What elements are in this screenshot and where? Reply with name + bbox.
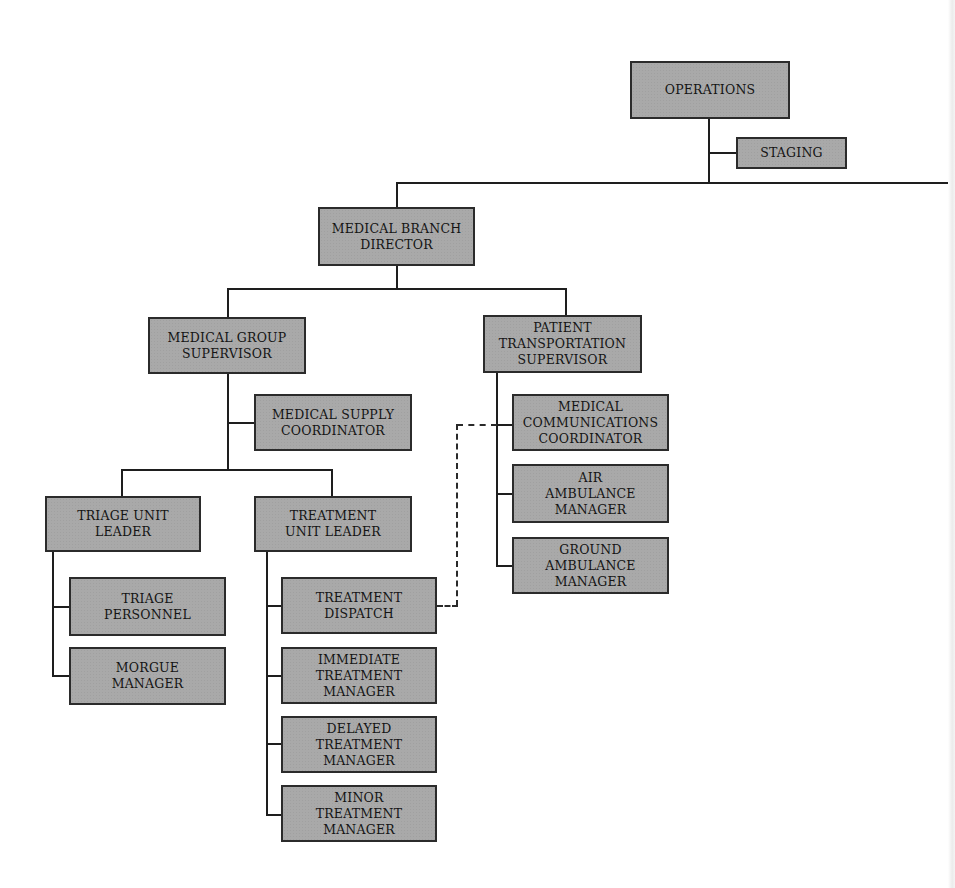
connector-triage-leader-down	[52, 551, 54, 677]
node-staging: STAGING	[736, 137, 847, 169]
connector-to-transport-supervisor	[565, 288, 567, 316]
connector-transport-supervisor-down	[496, 372, 498, 567]
page-edge-shadow	[948, 0, 955, 888]
connector-to-branch-director	[396, 182, 398, 208]
connector-triage-personnel	[52, 606, 70, 608]
connector-immediate	[266, 675, 282, 677]
node-immediate-treatment-manager: IMMEDIATE TREATMENT MANAGER	[281, 647, 437, 704]
node-triage-personnel: TRIAGE PERSONNEL	[69, 577, 226, 636]
node-patient-transportation-supervisor: PATIENT TRANSPORTATION SUPERVISOR	[483, 315, 642, 373]
node-delayed-treatment-manager: DELAYED TREATMENT MANAGER	[281, 716, 437, 773]
node-treatment-dispatch: TREATMENT DISPATCH	[281, 577, 437, 634]
connector-delayed	[266, 743, 282, 745]
connector-branch-bar	[227, 288, 567, 290]
org-chart: OPERATIONS STAGING MEDICAL BRANCH DIRECT…	[0, 0, 955, 888]
node-medical-branch-director: MEDICAL BRANCH DIRECTOR	[318, 207, 475, 266]
connector-air-ambulance	[496, 493, 513, 495]
node-air-ambulance-manager: AIR AMBULANCE MANAGER	[512, 464, 669, 523]
connector-main-bar	[396, 182, 948, 184]
dashed-link-bottom	[437, 605, 458, 607]
node-minor-treatment-manager: MINOR TREATMENT MANAGER	[281, 785, 437, 842]
dashed-link-vertical	[456, 424, 458, 606]
connector-to-treatment-leader	[331, 469, 333, 497]
connector-supply-coordinator	[227, 422, 255, 424]
connector-communications	[496, 424, 513, 426]
connector-to-triage-leader	[121, 469, 123, 497]
connector-ground-ambulance	[496, 565, 513, 567]
connector-minor	[266, 814, 282, 816]
connector-operations-down	[708, 118, 710, 184]
dashed-link-top	[457, 424, 497, 426]
connector-morgue-manager	[52, 675, 70, 677]
connector-treatment-dispatch	[266, 605, 282, 607]
connector-branch-director-down	[396, 265, 398, 289]
connector-treatment-leader-down	[266, 551, 268, 816]
node-treatment-unit-leader: TREATMENT UNIT LEADER	[254, 496, 412, 552]
node-morgue-manager: MORGUE MANAGER	[69, 647, 226, 705]
node-medical-communications-coordinator: MEDICAL COMMUNICATIONS COORDINATOR	[512, 394, 669, 451]
node-medical-supply-coordinator: MEDICAL SUPPLY COORDINATOR	[254, 394, 412, 451]
connector-unit-bar	[121, 469, 333, 471]
connector-staging	[708, 152, 737, 154]
node-triage-unit-leader: TRIAGE UNIT LEADER	[45, 496, 201, 552]
node-operations: OPERATIONS	[630, 61, 790, 119]
node-ground-ambulance-manager: GROUND AMBULANCE MANAGER	[512, 537, 669, 594]
connector-to-group-supervisor	[227, 288, 229, 318]
node-medical-group-supervisor: MEDICAL GROUP SUPERVISOR	[148, 317, 306, 374]
